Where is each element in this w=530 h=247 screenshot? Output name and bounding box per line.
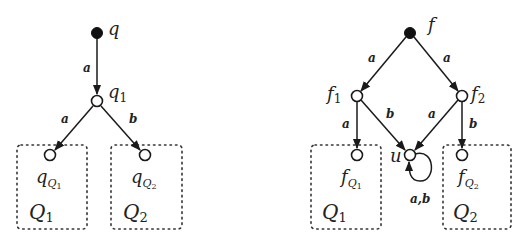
region-label-q2: Q2: [453, 200, 478, 225]
edge-label-f2-fQ2: b: [469, 117, 477, 131]
right-automaton: a a a b a b a,b f f1 f2 fQ1 u fQ2 Q1 Q2: [311, 14, 511, 229]
initial-state-q: [92, 28, 103, 39]
edge-f2-u: [415, 100, 458, 150]
state-f2: [457, 91, 468, 102]
edge-label-q1-qQ1: a: [61, 112, 69, 126]
edge-f-f2: [414, 37, 458, 91]
state-label-f1: f1: [325, 83, 341, 106]
edge-label-f1-fQ1: a: [342, 117, 350, 131]
state-label-f2: f2: [469, 83, 485, 106]
edge-label-f-f1: a: [368, 51, 376, 65]
state-qQ2: [140, 150, 151, 161]
state-label-qQ1: qQ1: [36, 166, 62, 191]
edge-label-f1-u: b: [386, 107, 394, 121]
state-label-u: u: [390, 145, 402, 166]
state-q1: [92, 96, 103, 107]
state-label-fQ2: fQ2: [456, 166, 479, 191]
automata-diagram: a a b q q1 qQ1 qQ2 Q1 Q2 a a a b: [0, 0, 530, 247]
region-label-q1: Q1: [322, 200, 347, 225]
region-label-q2: Q2: [123, 200, 148, 225]
state-label-q1: q1: [108, 81, 127, 105]
state-label-fQ1: fQ1: [339, 166, 362, 191]
region-label-q1: Q1: [29, 200, 54, 225]
edge-label-q1-qQ2: b: [129, 112, 137, 126]
state-label-f: f: [426, 14, 438, 35]
edge-label-f-f2: a: [443, 51, 451, 65]
edge-label-f2-u: a: [428, 107, 436, 121]
state-fQ2: [457, 150, 468, 161]
edge-label-q-q1: a: [83, 61, 91, 75]
state-f1: [352, 91, 363, 102]
left-automaton: a a b q q1 qQ1 qQ2 Q1 Q2: [17, 18, 182, 229]
state-fQ1: [352, 150, 363, 161]
state-label-qQ2: qQ2: [131, 166, 157, 191]
state-qQ1: [45, 150, 56, 161]
edge-f1-u: [361, 100, 405, 150]
state-u: [405, 150, 416, 161]
state-label-q: q: [108, 18, 120, 39]
edge-label-u-u: a,b: [410, 192, 430, 206]
initial-state-f: [405, 28, 416, 39]
